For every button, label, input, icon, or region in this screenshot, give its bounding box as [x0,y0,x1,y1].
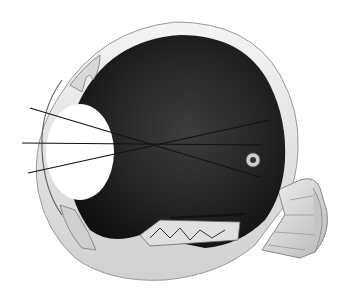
lens [46,104,114,200]
retina-spot [246,153,260,167]
eye-illustration: Anatomical cross-section of the human ey… [0,0,339,295]
eye-cross-section [0,0,339,295]
